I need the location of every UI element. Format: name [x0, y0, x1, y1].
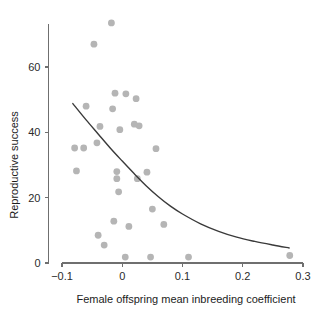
data-point — [115, 188, 122, 195]
data-point — [185, 254, 192, 261]
data-point — [83, 103, 90, 110]
data-point — [94, 139, 101, 146]
data-point — [153, 145, 160, 152]
data-point — [149, 206, 156, 213]
data-point — [113, 175, 120, 182]
y-tick-label: 0 — [34, 257, 40, 269]
data-point — [80, 145, 87, 152]
data-point — [110, 218, 117, 225]
axes-group — [49, 24, 304, 263]
x-tick-label: 0 — [119, 270, 125, 282]
x-tick-label: 0.1 — [175, 270, 190, 282]
data-point — [122, 90, 129, 97]
data-point — [91, 41, 98, 48]
data-point — [144, 169, 151, 176]
y-axis-title: Reproductive success — [8, 111, 20, 219]
data-point — [147, 254, 154, 261]
y-tick-label: 60 — [28, 61, 40, 73]
x-axis-title: Female offspring mean inbreeding coeffic… — [76, 293, 295, 305]
data-point — [71, 145, 78, 152]
plot-canvas: 0204060 −0.100.10.20.3 Female offspring … — [0, 0, 323, 321]
data-point — [125, 223, 132, 230]
x-tick-label: −0.1 — [51, 270, 73, 282]
data-point — [286, 252, 293, 259]
data-point — [97, 123, 104, 130]
data-point — [95, 232, 102, 239]
data-point — [131, 121, 138, 128]
y-tick-label: 20 — [28, 192, 40, 204]
y-tick-label: 40 — [28, 126, 40, 138]
data-point — [109, 105, 116, 112]
data-point — [160, 221, 167, 228]
y-axis-ticks: 0204060 — [28, 61, 48, 269]
x-axis-ticks: −0.100.10.20.3 — [51, 263, 311, 282]
x-tick-label: 0.3 — [295, 270, 310, 282]
data-point — [112, 90, 119, 97]
data-point — [73, 167, 80, 174]
data-point — [116, 126, 123, 133]
data-point — [113, 168, 120, 175]
data-point — [133, 95, 140, 102]
data-point — [122, 254, 129, 261]
fit-curve — [73, 104, 289, 248]
scatter-plot-figure: 0204060 −0.100.10.20.3 Female offspring … — [0, 0, 323, 321]
data-point — [101, 242, 108, 249]
x-tick-label: 0.2 — [235, 270, 250, 282]
data-points-group — [71, 20, 293, 261]
data-point — [108, 20, 115, 27]
